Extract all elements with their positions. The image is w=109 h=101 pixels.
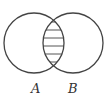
set-b-circle: [43, 13, 103, 73]
venn-diagram: A B: [0, 0, 109, 101]
set-b-label: B: [67, 81, 78, 96]
set-a-circle: [4, 13, 64, 73]
set-a-label: A: [30, 81, 40, 96]
intersection-hatch: [40, 22, 70, 62]
